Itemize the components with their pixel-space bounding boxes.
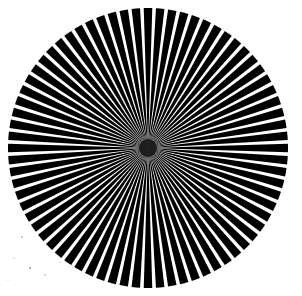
speckle-dot	[21, 236, 23, 238]
star-center-blur	[139, 139, 157, 157]
speckle-dot	[59, 261, 60, 262]
speckle-dot	[44, 274, 45, 275]
speckle-dot	[13, 257, 14, 258]
speckle-dot	[29, 267, 31, 269]
speckle-dot	[7, 279, 8, 280]
siemens-star-canvas	[0, 0, 302, 296]
